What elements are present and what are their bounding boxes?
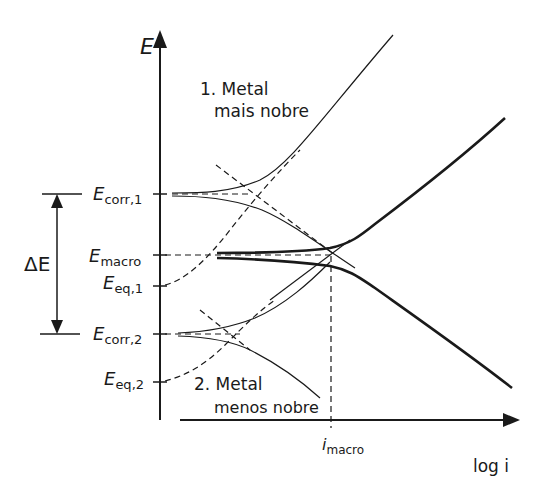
y-axis-label: E [140, 34, 154, 59]
arrow-up-icon [51, 194, 63, 208]
e-macro-label: Emacro [89, 245, 141, 269]
arrow-down-icon [51, 320, 63, 334]
i-macro-label: imacro [322, 435, 364, 457]
delta-e-label: ΔE [24, 252, 50, 276]
x-axis-arrow-icon [503, 413, 520, 427]
e-corr-1-label: Ecorr,1 [93, 183, 142, 207]
metal-1-curves [165, 35, 393, 285]
metal-2-label: 2. Metal menos nobre [194, 374, 319, 417]
e-corr-2-label: Ecorr,2 [93, 323, 142, 347]
y-axis-arrow-icon [153, 30, 167, 48]
svg-text:mais nobre: mais nobre [214, 101, 309, 121]
galvanic-polarization-diagram: E log i Ecorr,1 Emacro Eeq,1 Ecorr,2 Eeq… [0, 0, 545, 488]
delta-e-bracket: ΔE [24, 194, 82, 334]
metal-1-label: 1. Metal mais nobre [200, 79, 309, 121]
svg-text:2. Metal: 2. Metal [194, 374, 263, 394]
level-labels: Ecorr,1 Emacro Eeq,1 Ecorr,2 Eeq,2 [89, 183, 144, 392]
svg-text:menos nobre: menos nobre [214, 398, 319, 417]
e-eq-1-label: Eeq,1 [103, 272, 143, 296]
svg-text:1. Metal: 1. Metal [200, 79, 269, 99]
x-axis-label: log i [473, 456, 509, 476]
e-eq-2-label: Eeq,2 [104, 368, 144, 392]
y-axis: E [140, 30, 167, 420]
